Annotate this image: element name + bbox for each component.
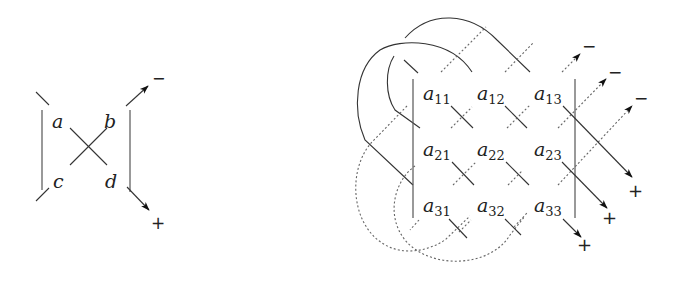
top-left-tick (36, 92, 49, 105)
crossing-dotted (507, 105, 530, 128)
dotted-diagonal (505, 43, 533, 72)
sign-plus-3: + (577, 234, 592, 255)
sign-minus: − (152, 69, 165, 88)
sign-minus-2: − (608, 62, 622, 82)
right-diagram: a11 a12 a13 a21 a22 a23 a31 a32 a33 (356, 18, 648, 261)
entry-a31: a31 (423, 194, 451, 219)
entry-a12: a12 (477, 82, 505, 107)
crossing-dotted (453, 162, 476, 185)
label-a: a (52, 110, 63, 132)
crossing-dotted (459, 220, 471, 232)
arrow-up-right-icon (558, 79, 606, 128)
left-diagram: a b c d − + (36, 69, 165, 233)
crossing-dotted (508, 171, 522, 185)
arrow-down-right-icon (562, 162, 607, 208)
crossing-dotted (451, 107, 472, 128)
label-d: d (105, 170, 117, 192)
entry-a33: a33 (534, 194, 562, 219)
label-c: c (53, 170, 64, 192)
matrix-entries: a11 a12 a13 a21 a22 a23 a31 a32 a33 (423, 82, 562, 219)
entry-a23: a23 (534, 138, 562, 163)
arrow-up-right-icon (562, 54, 580, 72)
crossing-solid (452, 162, 474, 185)
dotted-diagonal (441, 27, 486, 72)
sign-plus: + (151, 213, 165, 233)
crossing-solid (505, 106, 527, 128)
outer-arc-left (357, 43, 472, 185)
sign-minus-3: − (634, 88, 648, 108)
determinant-link-diagram: a b c d − + a11 a12 a13 (0, 0, 688, 286)
entry-a21: a21 (423, 138, 451, 163)
inner-arc-left (387, 56, 420, 128)
sign-minus-1: − (582, 36, 596, 56)
dotted-stub (410, 220, 419, 230)
sign-plus-1: + (628, 180, 643, 201)
dotted-arc-middle (394, 166, 525, 261)
arrow-up-right-icon (126, 86, 148, 106)
entry-a32: a32 (477, 194, 505, 219)
crossing-solid (505, 219, 521, 235)
crossing-solid (506, 162, 529, 185)
top-left-tick (404, 60, 418, 73)
entry-a22: a22 (477, 138, 505, 163)
arrow-up-right-icon (558, 106, 632, 185)
arrow-down-right-icon (127, 187, 149, 210)
entry-a11: a11 (423, 82, 451, 107)
entry-a13: a13 (534, 82, 562, 107)
sign-plus-2: + (602, 207, 617, 228)
crossing-dotted (514, 213, 527, 227)
